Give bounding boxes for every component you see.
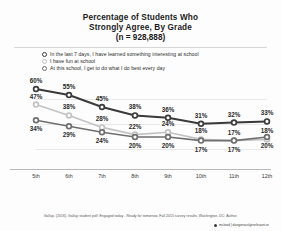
data-point[interactable] <box>265 135 270 140</box>
data-label: 20% <box>162 142 174 149</box>
legend-label-2: At this school, I get to do what I do be… <box>50 65 165 71</box>
data-label: 38% <box>129 103 141 110</box>
data-label: 45% <box>96 95 108 102</box>
at-symbol-icon <box>214 224 217 227</box>
x-tick-7th: 7th <box>98 173 106 179</box>
circle-dark-icon <box>42 52 47 57</box>
legend-item-do-what-i-do-best[interactable]: At this school, I get to do what I do be… <box>42 65 281 71</box>
data-label: 28% <box>96 115 108 122</box>
data-label: 31% <box>195 112 207 119</box>
data-point[interactable] <box>265 119 270 124</box>
data-label: 47% <box>30 93 42 100</box>
data-label: 18% <box>261 127 273 134</box>
data-label: 55% <box>63 83 75 90</box>
x-tick-12th: 12th <box>262 173 273 179</box>
page-title-line-2: Strongly Agree, By Grade <box>0 23 281 33</box>
chart-legend: In the last 7 days, I have learned somet… <box>0 51 281 71</box>
x-tick-11th: 11th <box>229 173 239 179</box>
data-label: 60% <box>30 77 42 84</box>
chart-card: Percentage of Students Who Strongly Agre… <box>0 0 281 231</box>
data-label: 34% <box>30 125 42 132</box>
handle-text: mcleod | dangerouslyirrelevant.or <box>219 223 269 227</box>
legend-label-1: I have fun at school <box>50 58 95 64</box>
legend-item-learned-interesting[interactable]: In the last 7 days, I have learned somet… <box>42 51 281 57</box>
x-tick-8th: 8th <box>131 173 139 179</box>
data-label: 20% <box>261 142 273 149</box>
chart-plot-area: 60%55%45%38%36%31%32%33%47%38%28%22%24%1… <box>10 77 271 169</box>
x-tick-5th: 5th <box>32 173 40 179</box>
data-label: 17% <box>228 146 240 153</box>
data-point[interactable] <box>166 135 171 140</box>
data-point[interactable] <box>232 120 237 125</box>
data-label: 17% <box>195 146 207 153</box>
data-label: 38% <box>63 103 75 110</box>
legend-label-0: In the last 7 days, I have learned somet… <box>50 51 199 57</box>
data-point[interactable] <box>34 87 39 92</box>
legend-item-have-fun[interactable]: I have fun at school <box>42 58 281 64</box>
data-point[interactable] <box>67 124 72 129</box>
data-label: 24% <box>162 120 174 127</box>
data-point[interactable] <box>199 138 204 143</box>
data-point[interactable] <box>34 118 39 123</box>
data-point[interactable] <box>100 105 105 110</box>
data-label: 22% <box>129 123 141 130</box>
x-tick-10th: 10th <box>196 173 207 179</box>
title-divider <box>14 47 267 48</box>
data-label: 29% <box>63 131 75 138</box>
data-point[interactable] <box>232 138 237 143</box>
data-point[interactable] <box>100 130 105 135</box>
circle-mid-icon <box>42 66 47 71</box>
author-handle[interactable]: mcleod | dangerouslyirrelevant.or <box>0 218 281 227</box>
data-point[interactable] <box>67 93 72 98</box>
x-axis-tick-labels: 5th6th7th8th9th10th11th12th <box>10 170 271 184</box>
data-point[interactable] <box>34 102 39 107</box>
data-label: 18% <box>195 127 207 134</box>
chart-footer: Gallup. (2016). Gallup student poll: Eng… <box>0 214 281 231</box>
chart-sample-size: (n = 928,888) <box>0 33 281 43</box>
circle-light-icon <box>42 59 47 64</box>
data-point[interactable] <box>133 113 138 118</box>
x-tick-6th: 6th <box>65 173 73 179</box>
data-label: 33% <box>261 109 273 116</box>
data-label: 17% <box>228 129 240 136</box>
data-label: 24% <box>96 137 108 144</box>
data-point[interactable] <box>133 135 138 140</box>
x-tick-9th: 9th <box>164 173 172 179</box>
data-label: 20% <box>129 142 141 149</box>
chart-title-block: Percentage of Students Who Strongly Agre… <box>0 0 281 43</box>
data-label: 32% <box>228 111 240 118</box>
data-point[interactable] <box>67 113 72 118</box>
page-title-line-1: Percentage of Students Who <box>0 13 281 23</box>
data-label: 36% <box>162 106 174 113</box>
data-point[interactable] <box>199 121 204 126</box>
